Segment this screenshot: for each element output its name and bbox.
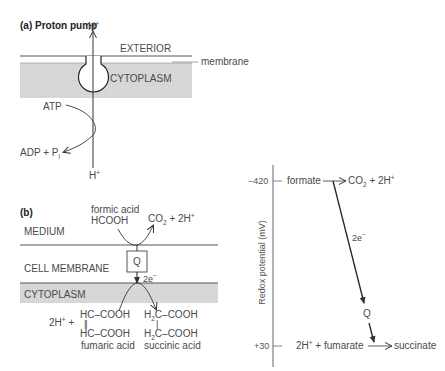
fumaric-line-2: HC–COOH (80, 329, 130, 339)
protons-text: + 2H (367, 175, 391, 186)
proton-pump-shape (79, 56, 109, 92)
proton-label-bottom: H+ (89, 171, 100, 181)
atp-label: ATP (43, 102, 62, 112)
cytoplasm-label-b: CYTOPLASM (24, 290, 86, 300)
adp-label: ADP + Pi (20, 148, 60, 158)
co2-text: CO (348, 175, 363, 186)
charge-sup: + (62, 316, 66, 323)
fumarate-text: + fumarate (313, 340, 364, 351)
tick-label-minus-420: −420 (248, 177, 268, 186)
succinate-product: succinate (394, 341, 436, 351)
exterior-label: EXTERIOR (120, 44, 171, 54)
charge-sup: − (362, 231, 366, 238)
quinone-label-chart: Q (363, 309, 371, 319)
panel-a-title: (a) Proton pump (20, 21, 97, 31)
medium-label: MEDIUM (24, 227, 65, 237)
atp-hydrolysis-arrow (64, 105, 95, 152)
formic-acid-formula: HCOOH (91, 216, 128, 226)
succinic-acid-name: succinic acid (144, 341, 201, 351)
fumaric-line-1: HC–COOH (80, 310, 130, 320)
formate-label: formate (287, 176, 321, 186)
electron-text: 2e (143, 274, 153, 284)
charge-sup: + (96, 169, 100, 176)
co2-product-chart: CO2 + 2H+ (348, 176, 395, 186)
panel-b-title: (b) (20, 208, 33, 218)
fumaric-acid-name: fumaric acid (81, 341, 135, 351)
plus-sign: + (68, 317, 74, 328)
carboxyl-text: C–COOH (155, 328, 198, 339)
protons-reactant: 2H+ + (49, 318, 74, 328)
cell-membrane-label: CELL MEMBRANE (24, 264, 109, 274)
electrons-label-chart: 2e− (352, 234, 366, 243)
electrons-label-b: 2e− (143, 275, 157, 284)
quinone-label: Q (133, 257, 141, 267)
membrane-label: membrane (201, 57, 249, 67)
formic-oxidation-arrow (118, 226, 153, 245)
adp-text: ADP + P (20, 147, 58, 158)
carboxyl-text: C–COOH (155, 309, 198, 320)
charge-sup: + (95, 20, 99, 27)
fumarate-reactant: 2H+ + fumarate (296, 341, 363, 351)
cytoplasm-label-a: CYTOPLASM (110, 74, 172, 84)
succinic-line-1: H2C–COOH (144, 310, 198, 320)
formic-acid-name: formic acid (91, 205, 139, 215)
charge-sup: + (391, 174, 395, 181)
q-to-fumarate-arrow (369, 323, 374, 342)
tick-label-plus-30: +30 (254, 342, 269, 351)
charge-sup: − (153, 272, 157, 279)
redox-axis-label: Redox potential (mV) (258, 213, 267, 313)
proton-label-top: H+ (88, 22, 99, 32)
protons-text: 2H (49, 317, 62, 328)
co2-text: CO (148, 213, 163, 224)
succinic-line-2: H2C–COOH (144, 329, 198, 339)
co2-product-b: CO2 + 2H+ (148, 214, 195, 224)
pi-subscript: i (58, 153, 59, 160)
redox-chart-graphics (273, 165, 391, 367)
electron-text: 2e (352, 233, 362, 243)
protons-text: + 2H (167, 213, 191, 224)
protons-text: 2H (296, 340, 309, 351)
charge-sup: + (191, 212, 195, 219)
